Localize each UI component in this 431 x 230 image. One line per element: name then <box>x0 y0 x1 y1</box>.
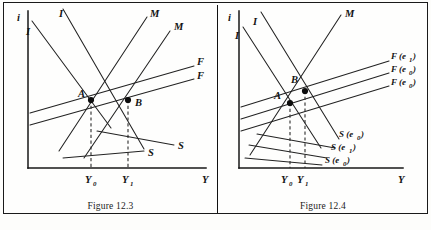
is-curve-2-label: I <box>252 16 258 27</box>
figure-12-3-caption: Figure 12.3 <box>4 201 217 211</box>
x-tick-sub-y1: 1 <box>130 180 133 187</box>
s-curve-e0-lower-label: S (e 0 ) <box>325 155 350 167</box>
s-curve-e0-upper <box>257 134 335 148</box>
x-axis-label: Y <box>398 174 406 185</box>
f-line-e0-middle-label: F (e 0 ) <box>390 64 416 76</box>
s-curve-e0-upper-label: S (e 0 ) <box>339 129 364 141</box>
lm-curve-2 <box>84 31 170 158</box>
point-a-marker <box>287 100 293 106</box>
svg-text:): ) <box>352 142 356 152</box>
f-line-2-label: F <box>196 70 204 81</box>
y-axis-label: i <box>228 12 231 23</box>
f-line-e1-label: F (e 1 ) <box>390 51 416 63</box>
lm-curve-1 <box>250 15 341 155</box>
figure-12-3-panel: i Y Y 0 Y 1 A B I I M M F F S S F <box>4 3 217 215</box>
f-line-1 <box>30 66 194 113</box>
svg-text:F (e: F (e <box>390 51 406 61</box>
point-a-marker <box>88 97 94 103</box>
lm-curve-1-label: M <box>344 8 355 19</box>
x-tick-label-y0: Y <box>85 174 93 185</box>
s-curve-e0-lower <box>245 158 322 165</box>
svg-text:): ) <box>412 51 416 61</box>
svg-text:S (e: S (e <box>339 129 353 139</box>
f-line-1-label: F <box>196 56 204 67</box>
s-curve-e1 <box>249 145 327 158</box>
point-b-marker <box>302 88 308 94</box>
f-line-2 <box>30 79 194 125</box>
lm-curve-1-label: M <box>149 8 160 19</box>
x-axis-label: Y <box>202 174 210 185</box>
svg-text:1: 1 <box>349 147 352 154</box>
svg-text:): ) <box>412 64 416 74</box>
svg-text:): ) <box>412 77 416 87</box>
point-a-label: A <box>77 88 85 99</box>
y-axis-label: i <box>17 12 20 23</box>
x-tick-sub-y1: 1 <box>305 180 308 187</box>
svg-text:S (e: S (e <box>325 155 339 165</box>
point-b-label: B <box>290 74 298 85</box>
s-curve-2-label: S <box>178 140 184 151</box>
lm-curve-2-label: M <box>173 21 184 32</box>
figure-frame: i Y Y 0 Y 1 A B I I M M F F S S F <box>3 2 428 214</box>
s-curve-1-label: S <box>148 147 154 158</box>
svg-text:1: 1 <box>409 56 412 63</box>
is-curve-1-label: I <box>25 26 31 37</box>
x-tick-label-y1: Y <box>122 174 130 185</box>
x-tick-label-y1: Y <box>297 174 305 185</box>
s-curve-e1-label: S (e 1 ) <box>331 142 356 154</box>
f-line-e0-lower <box>241 86 389 131</box>
figure-12-4-panel: i Y Y 0 Y 1 A B I I M F (e 1 ) <box>217 3 429 215</box>
svg-text:): ) <box>346 155 350 165</box>
point-a-label: A <box>273 90 281 101</box>
s-curve-2 <box>97 131 174 145</box>
is-curve-1 <box>243 27 321 148</box>
x-tick-sub-y0: 0 <box>93 180 97 187</box>
x-tick-sub-y0: 0 <box>289 180 293 187</box>
s-curve-1 <box>63 151 144 158</box>
svg-text:S (e: S (e <box>331 142 345 152</box>
f-line-e0-middle <box>241 73 389 119</box>
point-b-marker <box>125 97 131 103</box>
f-line-e0-lower-label: F (e 0 ) <box>390 77 416 89</box>
figure-12-3-plot: i Y Y 0 Y 1 A B I I M M F F S S <box>4 3 217 193</box>
svg-text:F (e: F (e <box>390 64 406 74</box>
is-curve-1 <box>32 21 111 128</box>
x-tick-label-y0: Y <box>281 174 289 185</box>
svg-text:): ) <box>360 129 364 139</box>
figure-12-4-caption: Figure 12.4 <box>217 201 429 211</box>
figure-12-4-plot: i Y Y 0 Y 1 A B I I M F (e 1 ) <box>217 3 429 193</box>
figure-page: i Y Y 0 Y 1 A B I I M M F F S S F <box>0 0 431 230</box>
point-b-label: B <box>134 97 142 108</box>
svg-text:F (e: F (e <box>390 77 406 87</box>
